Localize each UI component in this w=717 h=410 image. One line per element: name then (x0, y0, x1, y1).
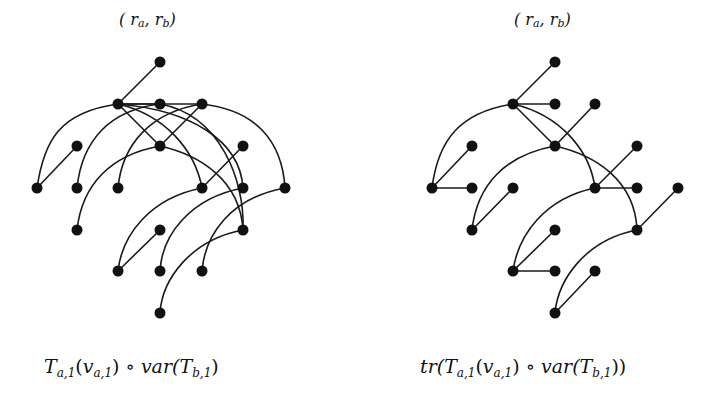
right-graph (427, 57, 684, 319)
caption-t2: T (580, 355, 593, 377)
graph-node (113, 266, 124, 277)
graph-node (155, 266, 166, 277)
graph-edge (513, 62, 555, 104)
graph-edge (160, 188, 243, 271)
graph-edge (118, 104, 243, 188)
caption-paren-close: ) (512, 355, 519, 377)
caption-end: )) (611, 355, 626, 377)
graph-node (550, 141, 561, 152)
graph-edge (160, 104, 243, 230)
caption-t2-sub: b,1 (192, 366, 211, 380)
graph-node (280, 183, 291, 194)
left-graph-title: ( ra, rb) (119, 10, 176, 29)
graph-node (550, 57, 561, 68)
caption-v: v (83, 355, 94, 377)
graph-edge (118, 230, 160, 271)
caption-v-sub: a,1 (93, 366, 112, 380)
graph-node (467, 225, 478, 236)
graph-node (113, 99, 124, 110)
title-close: ) (564, 10, 570, 29)
graph-edge (513, 230, 555, 271)
graph-node (632, 141, 643, 152)
caption-compose-operator: ∘ (119, 355, 140, 377)
title-comma: , r (145, 10, 163, 29)
graph-node (590, 99, 601, 110)
graph-node (590, 266, 601, 277)
graph-node (550, 308, 561, 319)
caption-paren-open: ( (475, 355, 482, 377)
graph-edge (595, 146, 637, 188)
left-graph (32, 57, 291, 319)
caption-v-sub: a,1 (494, 366, 513, 380)
graph-node (632, 225, 643, 236)
graph-edge (432, 146, 472, 188)
caption-t: T (44, 355, 57, 377)
graph-node (550, 225, 561, 236)
left-graph-caption: Ta,1(va,1) ∘ var(Tb,1) (44, 355, 219, 377)
caption-var: var( (541, 355, 580, 377)
right-graph-title: ( ra, rb) (514, 10, 571, 29)
graph-edge (77, 104, 160, 188)
graph-node (155, 141, 166, 152)
graph-node (550, 99, 561, 110)
graph-node (155, 99, 166, 110)
graph-edge (472, 188, 513, 230)
graph-node (590, 183, 601, 194)
graph-node (467, 141, 478, 152)
graph-edge (555, 104, 595, 146)
title-open: ( r (119, 10, 138, 29)
graph-node (238, 183, 249, 194)
graph-node (427, 183, 438, 194)
graph-node (197, 99, 208, 110)
title-close: ) (169, 10, 175, 29)
graph-canvas (0, 0, 717, 410)
graph-node (72, 141, 83, 152)
title-comma: , r (540, 10, 558, 29)
caption-compose-operator: ∘ (520, 355, 541, 377)
graph-node (238, 225, 249, 236)
graph-node (72, 183, 83, 194)
caption-v: v (483, 355, 494, 377)
graph-node (197, 266, 208, 277)
graph-node (550, 266, 561, 277)
graph-node (155, 308, 166, 319)
caption-t2: T (179, 355, 192, 377)
caption-t-sub: a,1 (457, 366, 476, 380)
title-sub-b: b (557, 17, 564, 30)
graph-node (155, 225, 166, 236)
graph-node (508, 183, 519, 194)
caption-t: T (444, 355, 457, 377)
caption-t2-sub: b,1 (592, 366, 611, 380)
left-graph-nodes (32, 57, 291, 319)
graph-node (72, 225, 83, 236)
graph-edge (118, 62, 160, 104)
caption-t-sub: a,1 (57, 366, 76, 380)
graph-node (632, 183, 643, 194)
graph-node (238, 141, 249, 152)
caption-tr: tr( (420, 355, 444, 377)
graph-node (673, 183, 684, 194)
graph-node (197, 183, 208, 194)
title-sub-a: a (138, 17, 145, 30)
right-graph-caption: tr(Ta,1(va,1) ∘ var(Tb,1)) (420, 355, 626, 377)
graph-node (467, 183, 478, 194)
graph-node (508, 266, 519, 277)
graph-edge (637, 188, 678, 230)
caption-paren-open: ( (75, 355, 82, 377)
graph-edge (37, 146, 77, 188)
graph-node (113, 183, 124, 194)
caption-var: var( (141, 355, 180, 377)
title-sub-a: a (533, 17, 540, 30)
graph-node (155, 57, 166, 68)
title-sub-b: b (162, 17, 169, 30)
graph-node (32, 183, 43, 194)
title-open: ( r (514, 10, 533, 29)
caption-end: ) (211, 355, 218, 377)
graph-node (508, 99, 519, 110)
graph-edge (555, 271, 595, 313)
